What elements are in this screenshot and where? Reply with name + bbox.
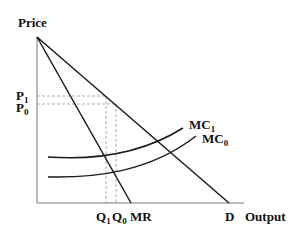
monopoly-cost-diagram: Price P1 P0 MC1 MC0 Q1 Q0 MR D Output (0, 0, 299, 239)
mc0-curve (48, 136, 196, 177)
mr-label: MR (130, 209, 152, 224)
demand-label: D (225, 209, 234, 224)
mc1-curve (48, 128, 183, 158)
q0-label: Q0 (112, 209, 127, 226)
y-axis-label: Price (18, 15, 47, 30)
mc0-label: MC0 (202, 131, 229, 148)
q1-label: Q1 (96, 209, 111, 226)
x-axis-label: Output (245, 209, 286, 224)
marginal-revenue-curve (37, 37, 131, 203)
